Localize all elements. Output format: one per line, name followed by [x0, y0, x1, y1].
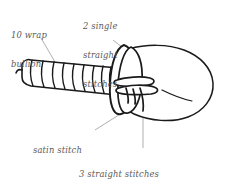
label-satin-line1: satin stitch	[33, 146, 82, 156]
label-bullion-line2: bullion	[11, 60, 47, 70]
label-bullion-line1: 10 wrap	[11, 31, 47, 41]
label-three-straight-line1: 3 straight stitches	[79, 170, 159, 180]
label-satin-stitch: satin stitch	[33, 127, 82, 175]
label-bullion: 10 wrap bullion	[11, 12, 47, 89]
stitch-diagram: 10 wrap bullion 2 single straight stitch…	[0, 0, 226, 182]
label-three-straight-stitches: 3 straight stitches (2 short, 1 long)	[79, 151, 159, 182]
single-straight-stitches	[114, 77, 158, 95]
label-single-straight-line3: stitches	[83, 80, 118, 90]
label-single-straight-line1: 2 single	[83, 22, 118, 32]
label-single-straight-stitches: 2 single straight stitches	[83, 3, 118, 109]
label-single-straight-line2: straight	[83, 51, 118, 61]
single-straight-stitch-2	[116, 85, 158, 94]
